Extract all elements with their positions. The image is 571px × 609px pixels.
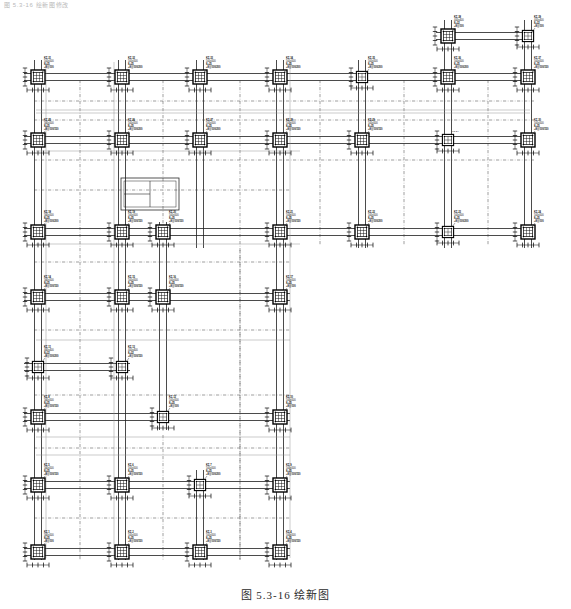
column-stirrup-spec: ⌀8@100/150 bbox=[286, 220, 300, 223]
column-mark-label: KZ-38400x4008⌀22⌀8@100 bbox=[454, 16, 464, 28]
figure-caption: 图 5.3-16 绘新图 bbox=[0, 586, 571, 602]
column-mark-label: KZ-34500x5008⌀25⌀8@100/200 bbox=[286, 57, 300, 69]
column-stirrup-spec: ⌀8@100/150 bbox=[44, 405, 58, 408]
column-mark-label: KZ-26500x5008⌀25⌀8@100/200 bbox=[128, 119, 142, 131]
column-mark-label: KZ-23500x5008⌀25⌀8@100/200 bbox=[454, 211, 468, 223]
column-stirrup-spec: ⌀8@100/150 bbox=[206, 540, 220, 543]
column-mark-label: KZ-12500x5008⌀25⌀8@100 bbox=[169, 396, 179, 408]
column-stirrup-spec: ⌀8@100/200 bbox=[368, 66, 382, 69]
column-mark-label: KZ-17500x5008⌀25⌀8@100 bbox=[286, 276, 296, 288]
column-mark-label: KZ-18500x5008⌀25⌀8@100/200 bbox=[44, 211, 58, 223]
column-stirrup-spec: ⌀8@100 bbox=[286, 405, 296, 408]
column-mark-label: KZ-20500x5008⌀25⌀8@100/150 bbox=[169, 211, 183, 223]
column-mark-label: KZ-15500x5008⌀25⌀8@100/150 bbox=[128, 276, 142, 288]
column-mark-label: KZ-30500x5008⌀25⌀8@100/150 bbox=[534, 119, 548, 131]
column-mark-label: KZ-37500x5008⌀25⌀8@100/150 bbox=[534, 57, 548, 69]
column-mark-label: KZ-16500x5008⌀25⌀8@100/150 bbox=[169, 276, 183, 288]
column-stirrup-spec: ⌀8@100/200 bbox=[206, 128, 220, 131]
column-stirrup-spec: ⌀8@100/200 bbox=[44, 220, 58, 223]
column-stirrup-spec: ⌀8@100 bbox=[286, 285, 296, 288]
column-mark-label: KZ-14500x5008⌀25⌀8@100/150 bbox=[44, 276, 58, 288]
column-mark-label: KZ-6500x5008⌀25⌀8@100/150 bbox=[128, 464, 142, 476]
column-stirrup-spec: ⌀8@100 bbox=[44, 66, 54, 69]
column-stirrup-spec: ⌀8@100/200 bbox=[206, 66, 220, 69]
column-mark-label: KZ-29500x5008⌀25⌀8@100/150 bbox=[368, 119, 382, 131]
column-stirrup-spec: ⌀8@100/200 bbox=[206, 473, 220, 476]
column-mark-label: KZ-3500x5008⌀25⌀8@100/150 bbox=[206, 531, 220, 543]
column-stirrup-spec: ⌀8@100/150 bbox=[286, 540, 300, 543]
column-mark-label: KZ-21500x5008⌀25⌀8@100/150 bbox=[286, 211, 300, 223]
column-stirrup-spec: ⌀8@100/150 bbox=[286, 473, 300, 476]
column-stirrup-spec: ⌀8@100/150 bbox=[169, 285, 183, 288]
column-mark-label: KZ-8500x5008⌀25⌀8@100/150 bbox=[44, 396, 58, 408]
column-mark-label: KZ-1500x5008⌀25⌀8@100 bbox=[44, 531, 54, 543]
column-stirrup-spec: ⌀8@100/150 bbox=[128, 540, 142, 543]
column-mark-label: KZ-39400x4008⌀22⌀8@100 bbox=[534, 16, 544, 28]
column-mark-label: KZ-31500x5008⌀25⌀8@100 bbox=[44, 57, 54, 69]
column-stirrup-spec: ⌀8@100/200 bbox=[128, 128, 142, 131]
column-mark-label: KZ-22500x5008⌀25⌀8@100/200 bbox=[368, 211, 382, 223]
column-mark-label: KZ-28500x5008⌀25⌀8@100/150 bbox=[286, 119, 300, 131]
column-mark-labels: KZ-31500x5008⌀25⌀8@100KZ-32500x5008⌀25⌀8… bbox=[0, 0, 571, 609]
column-stirrup-spec: ⌀8@100 bbox=[534, 25, 544, 28]
column-stirrup-spec: ⌀8@100/150 bbox=[534, 128, 548, 131]
column-stirrup-spec: ⌀8@100/200 bbox=[286, 66, 300, 69]
column-stirrup-spec: ⌀8@100 bbox=[454, 25, 464, 28]
column-mark-label: KZ-13400x4008⌀22⌀8@100/150 bbox=[128, 346, 142, 358]
column-stirrup-spec: ⌀8@100 bbox=[44, 540, 54, 543]
column-mark-label: KZ-9500x5008⌀25⌀8@100/150 bbox=[286, 464, 300, 476]
column-stirrup-spec: ⌀8@100/150 bbox=[44, 285, 58, 288]
column-mark-id: KZ-24 bbox=[452, 131, 459, 134]
column-stirrup-spec: ⌀8@100/150 bbox=[169, 220, 183, 223]
column-mark-label: KZ-36500x5008⌀25⌀8@100/200 bbox=[454, 57, 468, 69]
column-stirrup-spec: ⌀8@100/150 bbox=[44, 128, 58, 131]
column-stirrup-spec: ⌀8@100/150 bbox=[286, 128, 300, 131]
column-mark-label: KZ-2500x5008⌀25⌀8@100/150 bbox=[128, 531, 142, 543]
column-mark-label: KZ-19500x5008⌀25⌀8@100/150 bbox=[128, 211, 142, 223]
column-stirrup-spec: ⌀8@100/150 bbox=[44, 473, 58, 476]
column-mark-label: KZ-33500x5008⌀25⌀8@100/200 bbox=[206, 57, 220, 69]
column-stirrup-spec: ⌀8@100 bbox=[169, 405, 179, 408]
column-stirrup-spec: ⌀8@100/150 bbox=[128, 473, 142, 476]
column-mark-label: KZ-35500x5008⌀25⌀8@100/200 bbox=[368, 57, 382, 69]
column-stirrup-spec: ⌀8@100/150 bbox=[128, 220, 142, 223]
column-stirrup-spec: ⌀8@100/150 bbox=[128, 285, 142, 288]
column-mark-label: KZ-25500x5008⌀25⌀8@100/150 bbox=[44, 119, 58, 131]
column-mark-label: KZ-10500x5008⌀25⌀8@100 bbox=[286, 396, 296, 408]
column-stirrup-spec: ⌀8@100/150 bbox=[128, 355, 142, 358]
column-stirrup-spec: ⌀8@100/200 bbox=[368, 220, 382, 223]
column-stirrup-spec: ⌀8@100 bbox=[534, 220, 544, 223]
column-mark-label: KZ-5500x5008⌀25⌀8@100/150 bbox=[44, 464, 58, 476]
column-stirrup-spec: ⌀8@100/150 bbox=[368, 128, 382, 131]
column-mark-label: KZ-7500x5008⌀25⌀8@100/200 bbox=[206, 464, 220, 476]
column-stirrup-spec: ⌀8@100/200 bbox=[44, 355, 58, 358]
column-stirrup-spec: ⌀8@100/150 bbox=[534, 66, 548, 69]
column-mark-label: KZ-32500x5008⌀25⌀8@100/200 bbox=[128, 57, 142, 69]
column-mark-label: KZ-11400x4008⌀22⌀8@100/200 bbox=[44, 346, 58, 358]
column-stirrup-spec: ⌀8@100/200 bbox=[454, 66, 468, 69]
column-mark-label: KZ-4500x5008⌀25⌀8@100/150 bbox=[286, 531, 300, 543]
column-stirrup-spec: ⌀8@100/200 bbox=[454, 220, 468, 223]
column-mark-label: KZ-24500x5008⌀25⌀8@100 bbox=[534, 211, 544, 223]
column-mark-label: KZ-27500x5008⌀25⌀8@100/200 bbox=[206, 119, 220, 131]
column-stirrup-spec: ⌀8@100/200 bbox=[128, 66, 142, 69]
